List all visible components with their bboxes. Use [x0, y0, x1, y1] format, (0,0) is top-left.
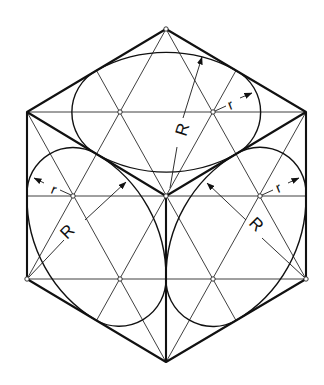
left-r-label: r [49, 181, 60, 198]
isometric-cube-diagram: R r R r R r [0, 0, 324, 385]
top-R-label: R [172, 121, 194, 138]
top-r-label: r [225, 96, 236, 113]
left-R-label: R [56, 221, 78, 243]
right-R-label: R [245, 213, 267, 235]
right-r-label: r [273, 179, 284, 196]
